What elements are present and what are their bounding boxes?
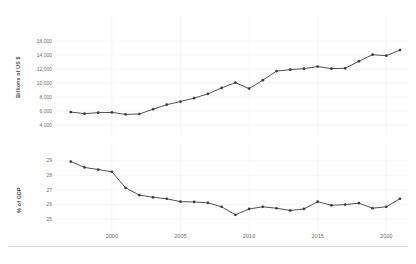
data-point xyxy=(344,67,347,70)
data-point xyxy=(344,203,347,206)
plot-area-top xyxy=(0,0,416,140)
data-point xyxy=(165,103,168,106)
data-point xyxy=(261,205,264,208)
data-point xyxy=(330,204,333,207)
data-point xyxy=(207,201,210,204)
data-point xyxy=(138,113,141,116)
data-point xyxy=(152,196,155,199)
data-point xyxy=(69,111,72,114)
data-point xyxy=(289,209,292,212)
data-point xyxy=(261,79,264,82)
data-point xyxy=(97,111,100,114)
x-tick-label: 2020 xyxy=(374,234,398,240)
data-point xyxy=(275,207,278,210)
data-point xyxy=(152,108,155,111)
x-tick-label: 2015 xyxy=(306,234,330,240)
data-point xyxy=(165,197,168,200)
data-point xyxy=(207,93,210,96)
data-point xyxy=(97,168,100,171)
data-point xyxy=(248,87,251,90)
series-line xyxy=(71,162,400,215)
data-point xyxy=(111,170,114,173)
data-point xyxy=(234,213,237,216)
data-point xyxy=(330,67,333,70)
data-point xyxy=(83,112,86,115)
data-point xyxy=(399,197,402,200)
figure: Billions of US $ 4,0006,0008,00010,00012… xyxy=(0,0,416,264)
data-point xyxy=(248,208,251,211)
data-point xyxy=(124,186,127,189)
data-point xyxy=(193,201,196,204)
data-point xyxy=(303,67,306,70)
data-point xyxy=(303,208,306,211)
data-point xyxy=(179,100,182,103)
chart-panel-gdp: % of GDP 2526272829 20002005201020152020 xyxy=(0,140,416,264)
data-point xyxy=(371,53,374,56)
data-point xyxy=(357,60,360,63)
data-point xyxy=(385,54,388,57)
data-point xyxy=(69,160,72,163)
data-point xyxy=(371,207,374,210)
data-point xyxy=(193,97,196,100)
data-point xyxy=(111,111,114,114)
data-point xyxy=(138,194,141,197)
data-point xyxy=(234,81,237,84)
x-tick-label: 2000 xyxy=(100,234,124,240)
data-point xyxy=(220,87,223,90)
data-point xyxy=(275,70,278,73)
data-point xyxy=(220,205,223,208)
data-point xyxy=(316,65,319,68)
data-point xyxy=(399,49,402,52)
x-tick-label: 2005 xyxy=(168,234,192,240)
bottom-divider xyxy=(8,246,408,247)
x-tick-label: 2010 xyxy=(237,234,261,240)
data-point xyxy=(179,200,182,203)
data-point xyxy=(83,166,86,169)
data-point xyxy=(357,202,360,205)
data-point xyxy=(316,200,319,203)
chart-panel-billions: Billions of US $ 4,0006,0008,00010,00012… xyxy=(0,0,416,140)
data-point xyxy=(289,68,292,71)
data-point xyxy=(385,205,388,208)
data-point xyxy=(124,113,127,116)
